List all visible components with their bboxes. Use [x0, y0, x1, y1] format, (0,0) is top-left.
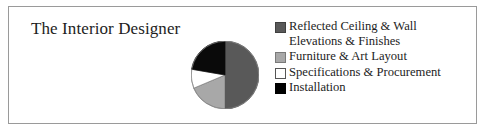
- legend-item-label: Installation: [289, 80, 346, 95]
- legend-item-specifications-procurement[interactable]: Specifications & Procurement: [275, 65, 483, 80]
- chart-legend: Reflected Ceiling & Wall Elevations & Fi…: [275, 19, 483, 96]
- pie-slice-reflected-ceiling[interactable]: [225, 41, 259, 109]
- legend-swatch-icon: [275, 68, 286, 79]
- legend-item-label: Reflected Ceiling & Wall Elevations & Fi…: [289, 19, 417, 48]
- legend-swatch-icon: [275, 52, 286, 63]
- legend-swatch-icon: [275, 22, 286, 33]
- pie-chart: [191, 41, 259, 109]
- legend-item-installation[interactable]: Installation: [275, 80, 483, 95]
- page-title: The Interior Designer: [31, 19, 180, 39]
- legend-swatch-icon: [275, 83, 286, 94]
- legend-item-reflected-ceiling[interactable]: Reflected Ceiling & Wall Elevations & Fi…: [275, 19, 483, 48]
- legend-item-label: Specifications & Procurement: [289, 65, 441, 80]
- legend-item-furniture-art-layout[interactable]: Furniture & Art Layout: [275, 49, 483, 64]
- pie-chart-svg: [191, 41, 259, 109]
- legend-item-label: Furniture & Art Layout: [289, 49, 407, 64]
- chart-frame: The Interior Designer Reflected Ceiling …: [8, 6, 477, 124]
